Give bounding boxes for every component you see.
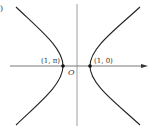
point-label-1-pi: (1, π) bbox=[41, 57, 60, 65]
origin-label: O bbox=[68, 68, 75, 77]
diagram-canvas bbox=[0, 0, 152, 130]
point-label-1-0: (1, 0) bbox=[94, 57, 113, 65]
hyperbola-diagram: ) (1, π) (1, 0) O bbox=[0, 0, 152, 130]
point-1-pi bbox=[61, 64, 65, 68]
point-1-0 bbox=[88, 64, 92, 68]
panel-label: ) bbox=[0, 4, 3, 13]
x-axis-arrow-icon bbox=[141, 64, 148, 68]
